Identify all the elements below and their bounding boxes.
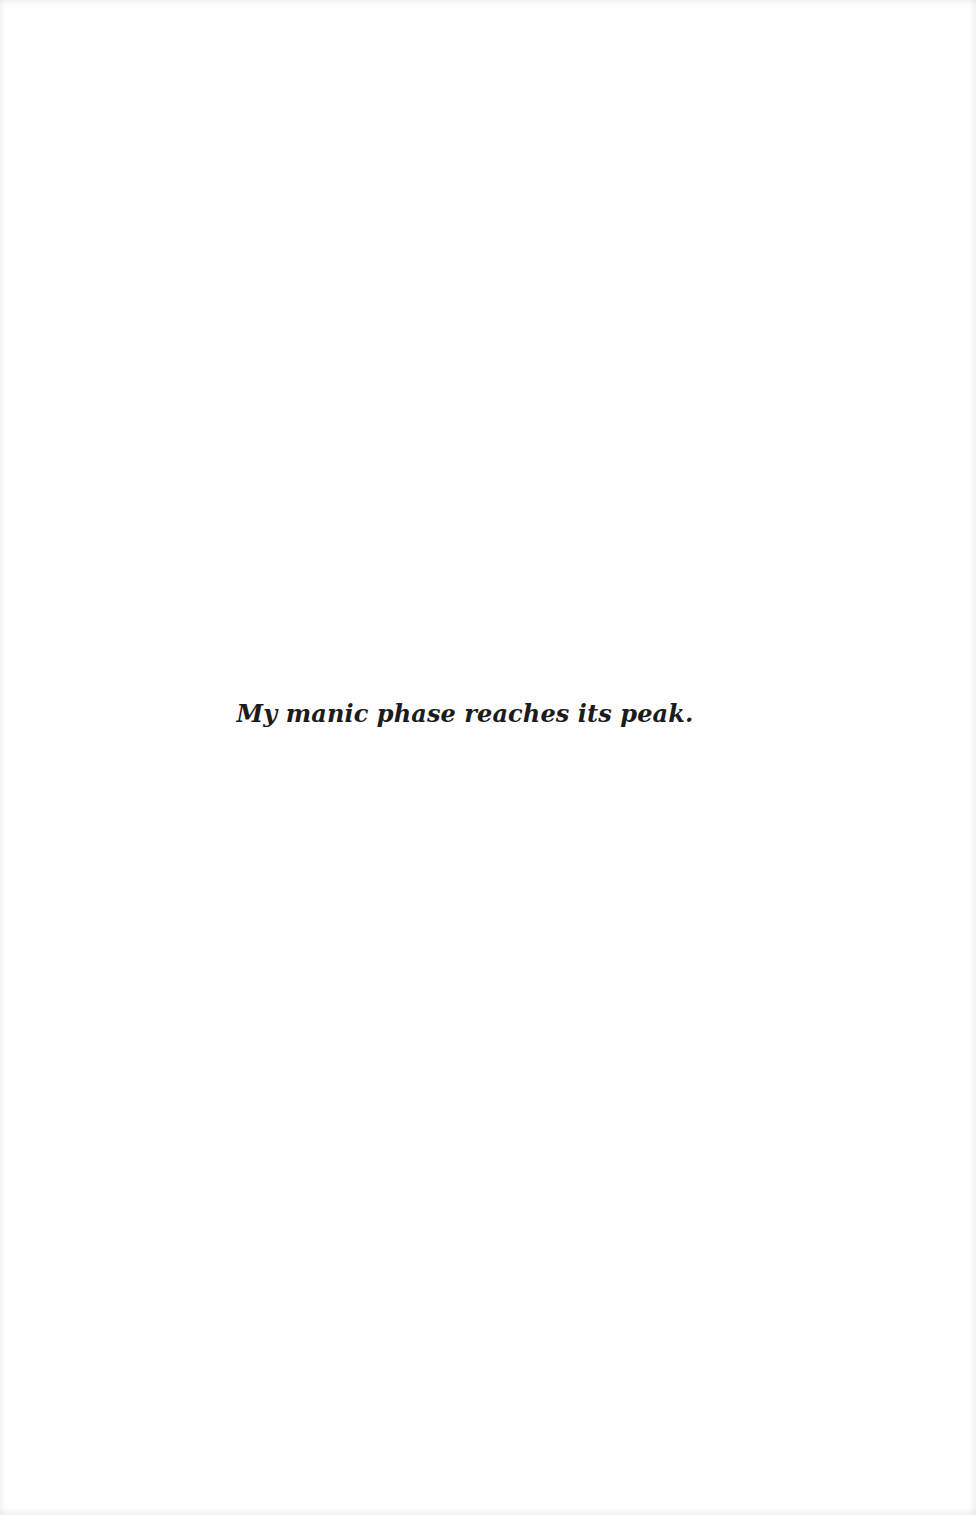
book-page: My manic phase reaches its peak. (0, 0, 976, 1515)
page-edge-left (0, 0, 6, 1515)
page-edge-bottom (0, 1507, 976, 1515)
page-edge-top (0, 0, 976, 6)
epigraph-text: My manic phase reaches its peak. (0, 696, 930, 732)
page-edge-right (968, 0, 976, 1515)
